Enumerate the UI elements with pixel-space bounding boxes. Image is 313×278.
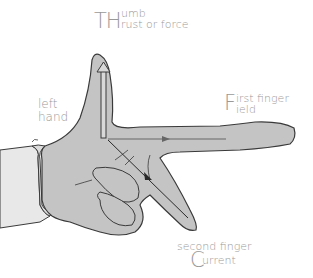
current-line2: urrent xyxy=(202,255,236,266)
current-line1: second finger xyxy=(177,241,252,252)
hand-label-line2: hand xyxy=(38,111,68,123)
field-initial: F xyxy=(224,93,235,114)
thumb-initial: TH xyxy=(94,11,121,32)
hand-body xyxy=(41,54,294,235)
thumb-line2: rust or force xyxy=(121,19,188,30)
field-line2: ield xyxy=(236,104,256,115)
hand-label-line1: left xyxy=(38,98,57,110)
left-hand-rule-diagram: TH umb rust or force left hand F irst fi… xyxy=(0,0,313,278)
hand-illustration xyxy=(0,0,313,278)
